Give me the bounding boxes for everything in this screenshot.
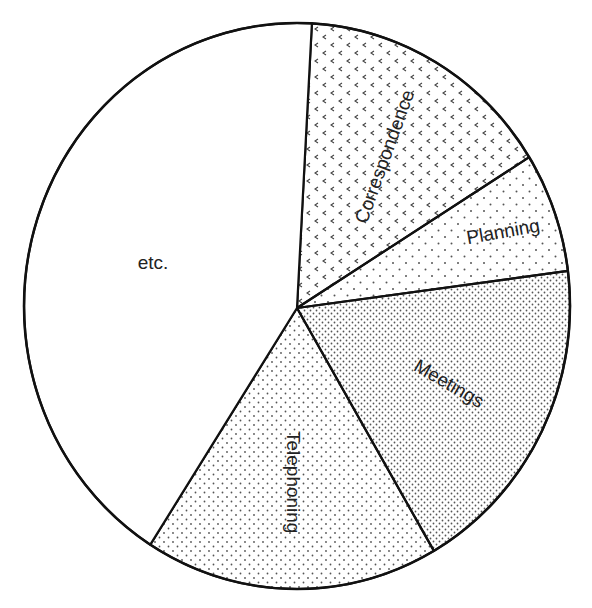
slice-label-etc: etc. [138, 252, 169, 273]
slice-label-telephoning: Telephoning [283, 431, 304, 533]
pie-chart: CorrespondencePlanningMeetingsTelephonin… [0, 0, 592, 608]
